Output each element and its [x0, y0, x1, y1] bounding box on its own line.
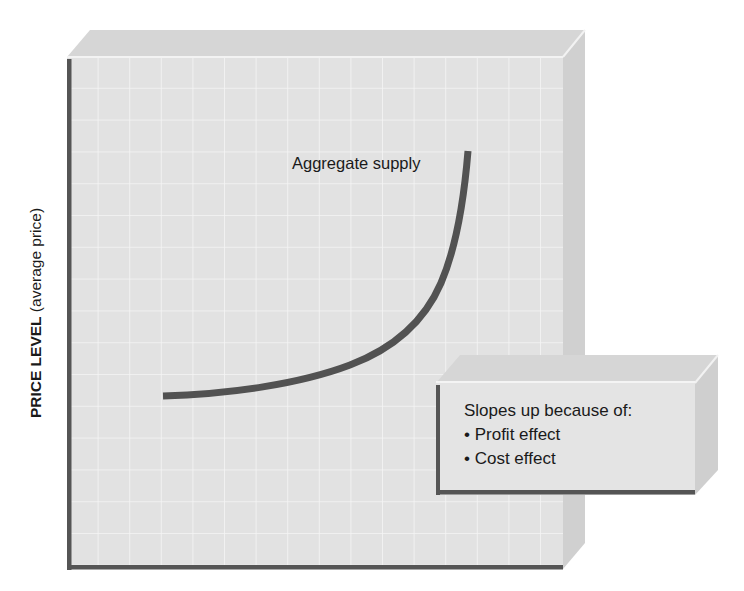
- callout-bottom-edge: [436, 490, 695, 495]
- callout-text: Slopes up because of: • Profit effect • …: [464, 399, 632, 471]
- x-axis-line: [67, 565, 563, 570]
- y-axis-line: [67, 59, 72, 570]
- y-axis-label-main: PRICE LEVEL: [27, 316, 44, 418]
- y-axis-label: PRICE LEVEL (average price): [27, 208, 45, 418]
- diagram-canvas: [0, 0, 744, 591]
- callout-top-bevel: [436, 355, 718, 383]
- main-box-top-bevel: [67, 30, 585, 57]
- callout-heading: Slopes up because of:: [464, 399, 632, 423]
- aggregate-supply-diagram: PRICE LEVEL (average price) Aggregate su…: [0, 0, 744, 591]
- curve-label: Aggregate supply: [292, 154, 420, 173]
- y-axis-label-sub: (average price): [27, 208, 44, 312]
- callout-item-profit-effect: • Profit effect: [464, 423, 632, 447]
- callout-left-edge: [436, 385, 440, 495]
- callout-item-cost-effect: • Cost effect: [464, 447, 632, 471]
